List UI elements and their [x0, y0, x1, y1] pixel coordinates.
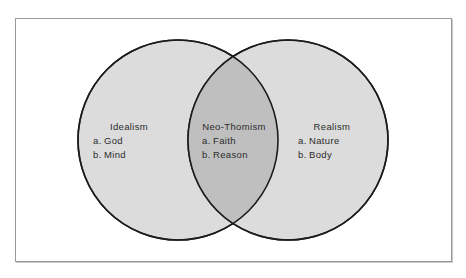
right-item-a-marker: a. [298, 134, 309, 148]
intersection-set-labels: Neo-Thomism a.Faith b.Reason [188, 120, 280, 162]
right-set-item-a: a.Nature [286, 134, 378, 148]
left-item-b-marker: b. [93, 148, 104, 162]
intersection-set-item-a: a.Faith [188, 134, 280, 148]
intersection-set-item-b: b.Reason [188, 148, 280, 162]
left-item-a-marker: a. [93, 134, 104, 148]
right-set-labels: Realism a.Nature b.Body [286, 120, 378, 162]
left-set-item-a: a.God [83, 134, 175, 148]
intersection-set-heading: Neo-Thomism [188, 120, 280, 134]
left-set-labels: Idealism a.God b.Mind [83, 120, 175, 162]
left-item-a-label: God [104, 135, 123, 146]
right-item-b-marker: b. [298, 148, 309, 162]
left-item-b-label: Mind [104, 149, 126, 160]
right-set-heading: Realism [286, 120, 378, 134]
right-set-item-b: b.Body [286, 148, 378, 162]
left-set-heading: Idealism [83, 120, 175, 134]
intersection-item-b-marker: b. [202, 148, 213, 162]
left-set-item-b: b.Mind [83, 148, 175, 162]
right-item-b-label: Body [309, 149, 332, 160]
intersection-item-a-marker: a. [202, 134, 213, 148]
intersection-item-a-label: Faith [213, 135, 236, 146]
venn-diagram-page: Idealism a.God b.Mind Neo-Thomism a.Fait… [0, 0, 466, 278]
intersection-item-b-label: Reason [213, 149, 248, 160]
right-item-a-label: Nature [309, 135, 340, 146]
